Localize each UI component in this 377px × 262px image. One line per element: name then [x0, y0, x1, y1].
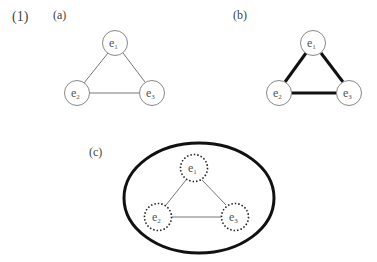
node-a-e3: e3 [140, 81, 165, 106]
panel-b-label: (b) [233, 8, 247, 22]
edge-e1-e2 [166, 180, 186, 205]
edge-e1-e2 [285, 53, 306, 82]
node-b-e2: e2 [267, 81, 292, 106]
panel-b: (b) e1 e2 e3 [233, 8, 362, 106]
node-c-e1: e1 [181, 155, 208, 182]
panel-c-label: (c) [89, 145, 102, 159]
edge-e1-e2 [84, 53, 108, 83]
panel-c: (c) e1 e2 e3 [89, 143, 274, 253]
node-c-e2: e2 [145, 204, 172, 231]
node-b-e3: e3 [337, 81, 362, 106]
panel-b-edges [285, 53, 343, 93]
panel-a: (a) e1 e2 e3 [53, 8, 165, 106]
node-a-e1: e1 [103, 31, 128, 56]
node-a-e2: e2 [65, 81, 90, 106]
edge-e1-e3 [321, 53, 343, 82]
node-c-e3: e3 [222, 204, 249, 231]
edge-e1-e3 [202, 180, 226, 205]
edge-e1-e3 [123, 53, 145, 82]
node-b-e1: e1 [301, 31, 326, 56]
figure-number: (1) [12, 9, 29, 25]
panel-a-edges [84, 53, 145, 93]
panel-c-edges [166, 180, 226, 217]
diagram-canvas: (1) (a) e1 e2 e3 (b) e1 [0, 0, 377, 262]
panel-a-label: (a) [53, 8, 66, 22]
